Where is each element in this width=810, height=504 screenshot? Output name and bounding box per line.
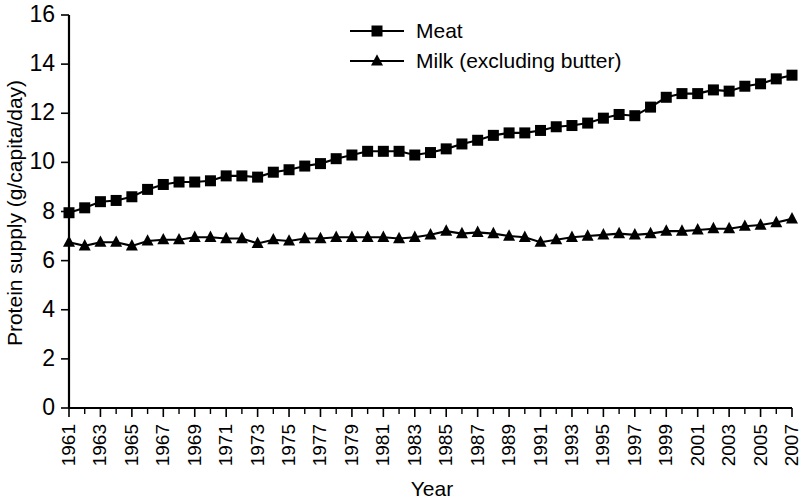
x-tick-label: 1971 — [215, 424, 236, 466]
x-tick-label: 1989 — [498, 424, 519, 466]
data-point-marker — [267, 233, 279, 244]
data-point-marker — [362, 230, 374, 241]
data-point-marker — [174, 177, 185, 188]
data-point-marker — [346, 230, 358, 241]
data-point-marker — [425, 147, 436, 158]
x-tick-label: 2005 — [750, 424, 771, 466]
data-point-marker — [739, 81, 750, 92]
data-point-marker — [488, 130, 499, 141]
data-point-marker — [409, 150, 420, 161]
data-point-marker — [94, 235, 106, 246]
data-point-marker — [315, 158, 326, 169]
data-point-marker — [394, 146, 405, 157]
data-point-marker — [786, 212, 798, 223]
data-point-marker — [299, 232, 311, 243]
data-series-group — [63, 70, 798, 251]
data-point-marker — [755, 78, 766, 89]
x-tick-label: 1965 — [121, 424, 142, 466]
data-point-marker — [111, 195, 122, 206]
data-point-marker — [551, 121, 562, 132]
x-tick-label: 2001 — [687, 424, 708, 466]
data-point-marker — [126, 191, 137, 202]
data-point-marker — [372, 26, 383, 37]
data-point-marker — [645, 102, 656, 113]
data-point-marker — [707, 222, 719, 233]
data-point-marker — [362, 146, 373, 157]
data-point-marker — [330, 230, 342, 241]
data-point-marker — [142, 184, 153, 195]
y-tick-label: 12 — [29, 99, 55, 125]
data-point-marker — [346, 150, 357, 161]
series-meat — [64, 70, 798, 219]
y-tick-label: 16 — [29, 1, 55, 27]
data-point-marker — [110, 235, 122, 246]
x-tick-label: 1993 — [561, 424, 582, 466]
chart-container: 0246810121416 19611963196519671969197119… — [0, 0, 810, 504]
data-point-marker — [771, 73, 782, 84]
data-point-marker — [676, 88, 687, 99]
data-point-marker — [472, 226, 484, 237]
x-tick-label: 1999 — [655, 424, 676, 466]
data-point-marker — [377, 230, 389, 241]
data-point-marker — [708, 84, 719, 95]
x-tick-label: 1991 — [530, 424, 551, 466]
legend-label: Meat — [416, 19, 463, 42]
y-tick-label: 2 — [42, 345, 55, 371]
data-point-marker — [268, 167, 279, 178]
data-point-marker — [95, 196, 106, 207]
data-point-marker — [371, 54, 383, 65]
legend-label: Milk (excluding butter) — [416, 49, 621, 72]
data-point-marker — [204, 230, 216, 241]
x-tick-label: 1961 — [58, 424, 79, 466]
data-point-marker — [284, 164, 295, 175]
data-point-marker — [331, 153, 342, 164]
y-axis-title: Protein supply (g/capita/day) — [3, 80, 26, 346]
y-axis: 0246810121416 — [29, 1, 69, 420]
y-tick-label: 6 — [42, 247, 55, 273]
legend-item-milk[interactable]: Milk (excluding butter) — [350, 49, 621, 72]
x-tick-label: 1967 — [152, 424, 173, 466]
data-point-marker — [299, 161, 310, 172]
y-tick-label: 10 — [29, 148, 55, 174]
data-point-marker — [158, 179, 169, 190]
x-tick-label: 1977 — [309, 424, 330, 466]
data-point-marker — [629, 110, 640, 121]
data-point-marker — [598, 113, 609, 124]
x-tick-label: 1997 — [624, 424, 645, 466]
data-point-marker — [456, 138, 467, 149]
data-point-marker — [236, 170, 247, 181]
data-point-marker — [63, 235, 75, 246]
data-point-marker — [252, 172, 263, 183]
data-point-marker — [613, 227, 625, 238]
data-point-marker — [724, 86, 735, 97]
data-point-marker — [79, 202, 90, 213]
x-tick-label: 1983 — [404, 424, 425, 466]
data-point-marker — [566, 120, 577, 131]
x-tick-label: 1987 — [467, 424, 488, 466]
x-axis: 1961196319651967196919711973197519771979… — [58, 408, 802, 466]
y-tick-label: 8 — [42, 198, 55, 224]
data-point-marker — [157, 233, 169, 244]
data-point-marker — [472, 135, 483, 146]
legend-item-meat[interactable]: Meat — [350, 19, 463, 42]
data-point-marker — [661, 92, 672, 103]
x-tick-label: 2003 — [718, 424, 739, 466]
data-point-marker — [660, 224, 672, 235]
x-tick-label: 1979 — [341, 424, 362, 466]
data-point-marker — [614, 109, 625, 120]
data-point-marker — [504, 127, 515, 138]
x-tick-label: 1963 — [89, 424, 110, 466]
data-point-marker — [189, 230, 201, 241]
x-tick-label: 2007 — [781, 424, 802, 466]
data-point-marker — [692, 88, 703, 99]
chart-legend: MeatMilk (excluding butter) — [350, 19, 621, 72]
y-tick-label: 0 — [42, 394, 55, 420]
data-point-marker — [378, 146, 389, 157]
x-tick-label: 1995 — [592, 424, 613, 466]
x-tick-label: 1969 — [184, 424, 205, 466]
y-tick-label: 14 — [29, 50, 55, 76]
data-point-marker — [787, 70, 798, 81]
x-tick-label: 1981 — [372, 424, 393, 466]
data-point-marker — [205, 175, 216, 186]
protein-supply-line-chart: 0246810121416 19611963196519671969197119… — [0, 0, 810, 504]
